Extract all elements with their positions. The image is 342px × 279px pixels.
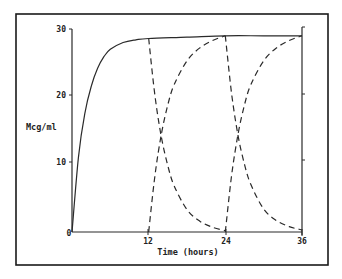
- x-axis-title: Time (hours): [157, 247, 218, 257]
- series-line-1: [149, 39, 226, 231]
- axes: [72, 27, 302, 235]
- series-layer: [72, 36, 302, 232]
- y-tick-label-20: 20: [56, 91, 66, 100]
- x-tick-label-24: 24: [221, 237, 231, 246]
- y-tick-label-30: 30: [56, 25, 66, 34]
- outer-frame: [16, 14, 328, 265]
- y-axis-title: Mcg/ml: [26, 122, 57, 132]
- chart: 30 20 10 0 12 24 36 Time (hours) Mcg/ml: [0, 0, 342, 279]
- y-tick-label-10: 10: [56, 158, 66, 167]
- x-tick-label-36: 36: [297, 237, 307, 246]
- series-line-2: [149, 36, 226, 232]
- series-line-3: [225, 36, 302, 230]
- series-line-4: [225, 36, 302, 232]
- x-tick-label-0: 0: [67, 229, 72, 238]
- series-line-0: [72, 36, 302, 232]
- x-tick-label-12: 12: [143, 237, 153, 246]
